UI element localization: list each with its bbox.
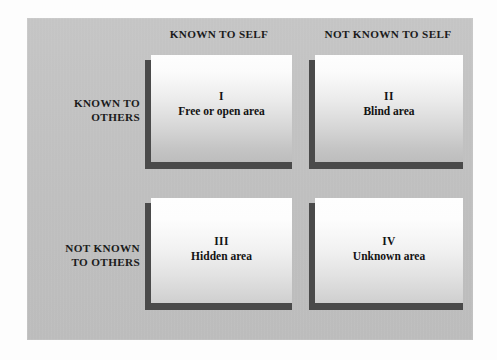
quadrant-card: IV Unknown area (315, 198, 463, 303)
quadrant-card-text: II Blind area (363, 89, 414, 121)
quadrant-card-text: IV Unknown area (353, 234, 425, 266)
quadrant-unknown-area: IV Unknown area (309, 198, 463, 310)
quadrant-numeral: II (363, 89, 414, 104)
row-header-known-to-others-line2: OTHERS (25, 110, 140, 124)
quadrant-bottom-shadow-icon (145, 162, 292, 169)
quadrant-card-text: I Free or open area (178, 89, 265, 121)
quadrant-numeral: I (178, 89, 265, 104)
row-header-known-to-others: KNOWN TO OTHERS (25, 96, 140, 125)
quadrant-numeral: IV (353, 234, 425, 249)
row-header-not-known-to-others: NOT KNOWN TO OTHERS (22, 241, 140, 270)
column-header-known-to-self: KNOWN TO SELF (146, 28, 292, 40)
quadrant-caption: Free or open area (178, 104, 265, 119)
row-header-not-known-to-others-line1: NOT KNOWN (22, 241, 140, 255)
quadrant-bottom-shadow-icon (145, 303, 292, 310)
quadrant-free-or-open-area: I Free or open area (145, 55, 292, 169)
quadrant-card: II Blind area (315, 55, 463, 162)
quadrant-caption: Unknown area (353, 249, 425, 264)
quadrant-card-text: III Hidden area (191, 234, 252, 266)
row-header-not-known-to-others-line2: TO OTHERS (22, 255, 140, 269)
column-header-not-known-to-self: NOT KNOWN TO SELF (306, 28, 470, 40)
johari-window-figure: KNOWN TO SELF NOT KNOWN TO SELF KNOWN TO… (0, 0, 497, 360)
quadrant-card: I Free or open area (151, 55, 292, 162)
row-header-known-to-others-line1: KNOWN TO (25, 96, 140, 110)
quadrant-hidden-area: III Hidden area (145, 198, 292, 310)
quadrant-bottom-shadow-icon (309, 162, 463, 169)
quadrant-numeral: III (191, 234, 252, 249)
quadrant-card: III Hidden area (151, 198, 292, 303)
quadrant-caption: Blind area (363, 104, 414, 119)
quadrant-blind-area: II Blind area (309, 55, 463, 169)
quadrant-caption: Hidden area (191, 249, 252, 264)
quadrant-bottom-shadow-icon (309, 303, 463, 310)
